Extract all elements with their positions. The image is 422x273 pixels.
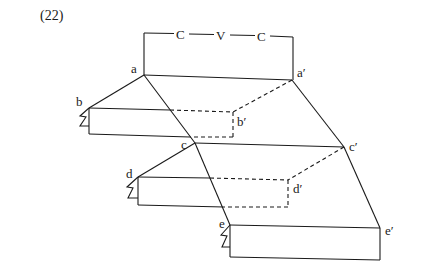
cvc-bracket: C V C: [144, 27, 293, 80]
edge-a-b: [89, 75, 144, 108]
level-e: e e′: [219, 216, 394, 260]
edge-c-prime-e-prime: [344, 147, 380, 228]
edge-c-d: [138, 143, 195, 177]
edge-c-prime-d-prime: [288, 147, 344, 180]
node-b-prime: b′: [237, 114, 247, 129]
node-e-prime: e′: [385, 223, 394, 238]
bracket-label-v: V: [216, 28, 226, 43]
node-a: a: [131, 61, 137, 76]
node-e: e: [219, 216, 225, 231]
level-a: a a′: [131, 61, 306, 80]
node-b: b: [76, 94, 83, 109]
node-a-prime: a′: [297, 65, 306, 80]
edge-a-prime-c-prime: [292, 80, 344, 147]
bracket-label-c2: C: [257, 29, 266, 44]
figure-number: (22): [40, 8, 64, 24]
node-d-prime: d′: [293, 181, 303, 196]
syllable-structure-diagram: (22) C V C a a′ b b′ c c′: [0, 0, 422, 273]
node-d: d: [126, 166, 133, 181]
level-c: c c′: [181, 137, 358, 154]
level-d: d d′: [126, 166, 303, 207]
edge-a-prime-b-prime: [233, 80, 292, 112]
bracket-label-c1: C: [176, 27, 185, 42]
node-c-prime: c′: [349, 139, 358, 154]
edge-c-e: [195, 143, 230, 225]
